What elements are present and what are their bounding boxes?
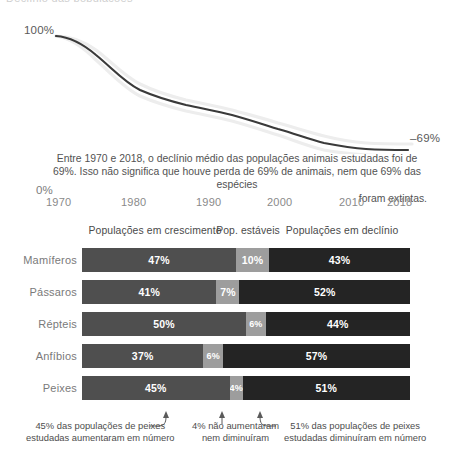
- line-end-label: –69%: [410, 132, 440, 144]
- annotation-right-line-1: 51% das populações de peixes: [284, 420, 426, 432]
- caption-line-2: Isso não significa que houve perda de 69…: [80, 166, 421, 190]
- segment-anfibios-growing: 37%: [82, 344, 203, 368]
- bar-row-label-passaros: Pássaros: [30, 280, 82, 304]
- x-tick-2018: 2018: [387, 196, 412, 208]
- bar-chart-legend: Populações em crescimento Pop. estáveis …: [0, 225, 474, 243]
- x-axis-ticks: 1970 1980 1990 2000 2010 2018: [0, 196, 474, 210]
- annotation-middle: 4% não aumentaram nem diminuíram: [192, 420, 279, 443]
- stacked-bar-chart: Populações em crescimento Pop. estáveis …: [0, 225, 474, 410]
- annotation-middle-line-1: 4% não aumentaram: [192, 420, 279, 432]
- segment-mamiferos-declining: 43%: [269, 248, 410, 272]
- annotation-left-line-2: estudadas aumentaram em número: [26, 432, 175, 444]
- x-tick-2010: 2010: [339, 196, 364, 208]
- bar-row-mamiferos: Mamíferos 47% 10% 43%: [82, 248, 410, 272]
- arrowhead-right: [257, 411, 263, 418]
- annotation-left-line-1: 45% das populações de peixes: [26, 420, 175, 432]
- confidence-band-upper: [56, 36, 412, 144]
- x-tick-1970: 1970: [46, 196, 71, 208]
- bar-row-label-repteis: Répteis: [38, 312, 82, 336]
- annotation-right: 51% das populações de peixes estudadas d…: [284, 420, 426, 443]
- segment-peixes-growing: 45%: [82, 376, 230, 400]
- segment-passaros-growing: 41%: [82, 280, 216, 304]
- arrowhead-middle: [219, 411, 225, 418]
- bar-chart-annotations: 45% das populações de peixes estudadas a…: [0, 404, 474, 462]
- segment-repteis-declining: 44%: [266, 312, 410, 336]
- bar-row-peixes: Peixes 45% 4% 51%: [82, 376, 410, 400]
- x-tick-1980: 1980: [121, 196, 146, 208]
- line-start-label: 100%: [24, 24, 54, 36]
- legend-declining-label: Populações em declínio: [286, 225, 399, 236]
- bar-row-passaros: Pássaros 41% 7% 52%: [82, 280, 410, 304]
- segment-peixes-declining: 51%: [243, 376, 410, 400]
- confidence-band-lower: [56, 36, 412, 154]
- bar-row-anfibios: Anfíbios 37% 6% 57%: [82, 344, 410, 368]
- bar-row-label-anfibios: Anfíbios: [36, 344, 82, 368]
- segment-mamiferos-stable: 10%: [236, 248, 269, 272]
- annotation-middle-line-2: nem diminuíram: [192, 432, 279, 444]
- annotation-right-line-2: estudadas diminuíram em número: [284, 432, 426, 444]
- cut-off-page-title: Declínio das populações: [6, 0, 133, 2]
- annotation-left: 45% das populações de peixes estudadas a…: [26, 420, 175, 443]
- segment-mamiferos-growing: 47%: [82, 248, 236, 272]
- segment-anfibios-stable: 6%: [203, 344, 223, 368]
- index-line: [56, 36, 408, 150]
- arrowhead-left: [163, 411, 169, 418]
- segment-passaros-declining: 52%: [239, 280, 410, 304]
- x-tick-1990: 1990: [196, 196, 221, 208]
- legend-growing-label: Populações em crescimento: [88, 225, 221, 236]
- segment-repteis-growing: 50%: [82, 312, 246, 336]
- x-tick-2000: 2000: [267, 196, 292, 208]
- bar-row-label-mamiferos: Mamíferos: [23, 248, 82, 272]
- segment-passaros-stable: 7%: [216, 280, 239, 304]
- segment-anfibios-declining: 57%: [223, 344, 410, 368]
- bar-row-label-peixes: Peixes: [43, 376, 82, 400]
- bar-row-repteis: Répteis 50% 6% 44%: [82, 312, 410, 336]
- line-chart: [0, 14, 474, 154]
- segment-repteis-stable: 6%: [246, 312, 266, 336]
- legend-stable-label: Pop. estáveis: [216, 225, 280, 236]
- line-chart-svg: [0, 14, 474, 154]
- segment-peixes-stable: 4%: [230, 376, 243, 400]
